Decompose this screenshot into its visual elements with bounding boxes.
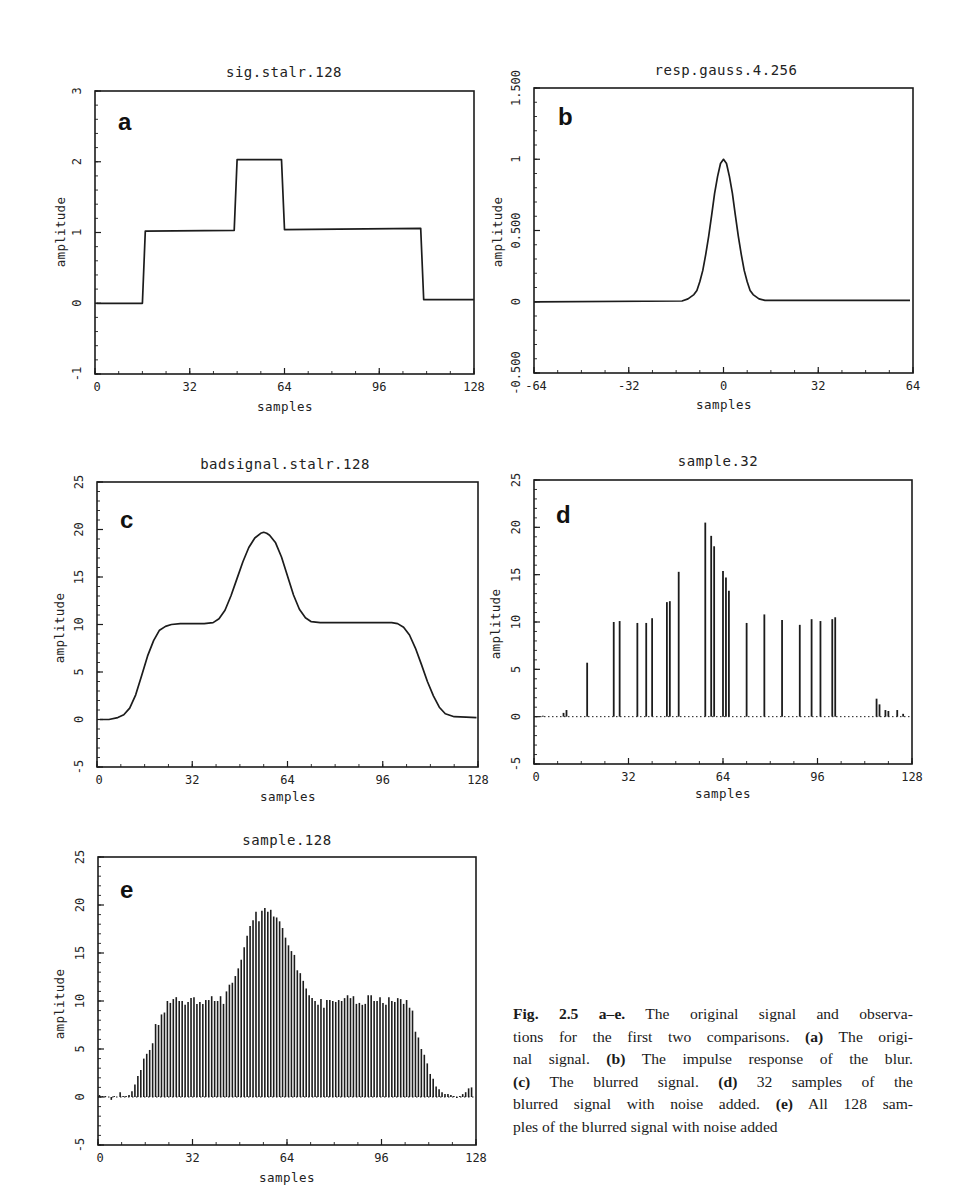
x-tick-label: 128 [465,1151,487,1165]
x-tick-label: 64 [716,770,730,784]
y-tick-label: 1 [70,229,84,236]
x-tick-label: -32 [618,379,640,393]
x-tick-label: 32 [183,380,197,394]
y-tick-label: 0 [70,300,84,307]
y-tick-label: 20 [73,898,87,912]
x-axis-label-c: samples [260,789,316,804]
chart-title-d: sample.32 [678,453,758,469]
y-tick-label: 15 [72,570,86,584]
x-tick-label: 0 [93,380,100,394]
y-tick-label: 2 [70,158,84,165]
plot-frame [534,88,913,373]
chart-panel-e: -505101520250326496128 [98,857,476,1145]
caption-line: Fig. 2.5 a–e. The original signal and ob… [513,1003,913,1026]
y-tick-label: 0 [509,298,523,305]
chart-title-a: sig.stalr.128 [226,64,342,80]
y-tick-label: 1 [509,156,523,163]
y-tick-label: 0.500 [509,212,523,248]
x-axis-label-a: samples [257,399,313,414]
x-tick-label: 32 [811,379,825,393]
data-line [100,532,477,719]
plot-frame [95,91,474,374]
x-tick-label: 128 [901,770,923,784]
panel-letter-b: b [558,103,573,131]
caption-line: tions for the first two comparisons. (a)… [513,1026,913,1049]
x-tick-label: 64 [280,1151,294,1165]
y-tick-label: 10 [509,615,523,629]
x-tick-label: 32 [185,773,199,787]
chart-title-e: sample.128 [242,832,331,848]
y-tick-label: 15 [509,567,523,581]
y-axis-label-c: amplitude [52,593,67,663]
y-tick-label: -1 [70,367,84,381]
y-tick-label: -5 [72,760,86,774]
x-tick-label: 32 [185,1151,199,1165]
y-tick-label: -5 [73,1138,87,1152]
chart-panel-b: -0.50000.50011.500-64-3203264 [534,88,913,373]
y-tick-label: 0 [73,1093,87,1100]
x-tick-label: 0 [95,773,102,787]
panel-letter-d: d [556,501,571,529]
plot-area: -505101520250326496128 [97,482,478,767]
caption-line: nal signal. (b) The impulse response of … [513,1048,913,1071]
plot-area: -505101520250326496128 [534,480,912,764]
y-tick-label: 0 [509,713,523,720]
y-tick-label: 5 [73,1045,87,1052]
y-tick-label: 10 [72,617,86,631]
chart-panel-d: -505101520250326496128 [534,480,912,764]
x-tick-label: 64 [277,380,291,394]
chart-panel-a: -101230326496128 [95,91,474,374]
y-axis-label-d: amplitude [488,589,503,659]
plot-frame [98,857,476,1145]
y-tick-label: 5 [509,666,523,673]
x-tick-label: 96 [372,380,386,394]
plot-area: -101230326496128 [95,91,474,374]
y-tick-label: 15 [73,946,87,960]
x-tick-label: 64 [906,379,920,393]
data-line [97,160,475,304]
x-tick-label: 0 [96,1151,103,1165]
panel-letter-e: e [120,876,133,904]
x-tick-label: 128 [463,380,485,394]
y-tick-label: 25 [73,850,87,864]
y-tick-label: 0 [72,716,86,723]
x-tick-label: 32 [621,770,635,784]
x-axis-label-b: samples [696,397,752,412]
x-tick-label: 96 [374,1151,388,1165]
plot-frame [97,482,478,767]
y-tick-label: 20 [509,520,523,534]
panel-letter-a: a [118,108,131,136]
y-tick-label: 3 [70,87,84,94]
caption-line: (c) The blurred signal. (d) 32 samples o… [513,1071,913,1094]
y-tick-label: 20 [72,522,86,536]
chart-title-c: badsignal.stalr.128 [200,456,370,472]
y-axis-label-b: amplitude [490,197,505,267]
y-tick-label: -0.500 [509,351,523,394]
y-tick-label: 5 [72,668,86,675]
y-tick-label: 1.500 [509,70,523,106]
y-axis-label-a: amplitude [53,197,68,267]
y-tick-label: 25 [509,473,523,487]
x-tick-label: 0 [720,379,727,393]
x-tick-label: -64 [525,379,547,393]
figure-caption: Fig. 2.5 a–e. The original signal and ob… [513,1003,913,1139]
x-axis-label-d: samples [695,786,751,801]
x-tick-label: 96 [810,770,824,784]
x-tick-label: 0 [532,770,539,784]
y-tick-label: 25 [72,475,86,489]
x-tick-label: 64 [280,773,294,787]
caption-line: blurred signal with noise added. (e) All… [513,1093,913,1116]
y-tick-label: -5 [509,757,523,771]
chart-title-b: resp.gauss.4.256 [655,62,798,78]
caption-line: ples of the blurred signal with noise ad… [513,1116,913,1139]
plot-area: -0.50000.50011.500-64-3203264 [534,88,913,373]
data-line [534,159,910,301]
y-axis-label-e: amplitude [52,969,67,1039]
x-axis-label-e: samples [259,1170,315,1185]
x-tick-label: 96 [376,773,390,787]
y-tick-label: 10 [73,994,87,1008]
chart-panel-c: -505101520250326496128 [97,482,478,767]
plot-area: -505101520250326496128 [98,857,476,1145]
panel-letter-c: c [120,506,133,534]
x-tick-label: 128 [467,773,489,787]
